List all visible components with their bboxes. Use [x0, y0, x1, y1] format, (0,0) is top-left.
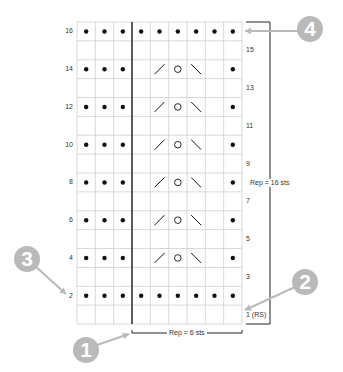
- yarn-over-icon: [175, 66, 182, 73]
- purl-dot-icon: [84, 218, 88, 222]
- yarn-over-icon: [175, 179, 182, 186]
- purl-dot-icon: [121, 105, 125, 109]
- row-label-10: 10: [53, 141, 73, 149]
- purl-dot-icon: [84, 180, 88, 184]
- purl-dot-icon: [121, 67, 125, 71]
- purl-dot-icon: [84, 67, 88, 71]
- ssk-icon: [191, 253, 201, 263]
- purl-dot-icon: [102, 29, 106, 33]
- k2tog-icon: [155, 177, 165, 187]
- purl-dot-icon: [231, 105, 235, 109]
- ssk-icon: [191, 215, 201, 225]
- purl-dot-icon: [121, 293, 125, 297]
- purl-dot-icon: [121, 256, 125, 260]
- purl-dot-icon: [194, 29, 198, 33]
- callout-4-icon: 4: [297, 16, 323, 42]
- yarn-over-icon: [175, 104, 182, 111]
- purl-dot-icon: [176, 293, 180, 297]
- purl-dot-icon: [84, 29, 88, 33]
- row-label-8: 8: [53, 178, 73, 186]
- ssk-icon: [191, 102, 201, 112]
- purl-dot-icon: [121, 142, 125, 146]
- purl-dot-icon: [231, 180, 235, 184]
- purl-dot-icon: [102, 293, 106, 297]
- callout-4-arrow-head: [245, 28, 251, 35]
- purl-dot-icon: [84, 142, 88, 146]
- ssk-icon: [191, 140, 201, 150]
- purl-dot-icon: [102, 256, 106, 260]
- row-label-3: 3: [246, 273, 250, 281]
- chart-symbols: [84, 29, 235, 298]
- purl-dot-icon: [84, 293, 88, 297]
- callout-2-icon: 2: [292, 269, 318, 295]
- purl-dot-icon: [139, 29, 143, 33]
- row-label-13: 13: [246, 84, 254, 92]
- purl-dot-icon: [157, 293, 161, 297]
- purl-dot-icon: [231, 218, 235, 222]
- purl-dot-icon: [102, 180, 106, 184]
- knitting-chart: [0, 0, 343, 372]
- row-label-5: 5: [246, 235, 250, 243]
- purl-dot-icon: [84, 105, 88, 109]
- purl-dot-icon: [176, 29, 180, 33]
- callout-3-icon: 3: [14, 246, 40, 272]
- purl-dot-icon: [102, 67, 106, 71]
- purl-dot-icon: [194, 293, 198, 297]
- ssk-icon: [191, 64, 201, 74]
- purl-dot-icon: [102, 218, 106, 222]
- purl-dot-icon: [231, 256, 235, 260]
- purl-dot-icon: [231, 67, 235, 71]
- row-label-9: 9: [246, 160, 250, 168]
- k2tog-icon: [155, 140, 165, 150]
- purl-dot-icon: [231, 29, 235, 33]
- purl-dot-icon: [212, 29, 216, 33]
- purl-dot-icon: [157, 29, 161, 33]
- k2tog-icon: [155, 64, 165, 74]
- k2tog-icon: [155, 215, 165, 225]
- row-label-7: 7: [246, 197, 250, 205]
- purl-dot-icon: [121, 180, 125, 184]
- yarn-over-icon: [175, 217, 182, 224]
- purl-dot-icon: [231, 142, 235, 146]
- row-label-1: 1 (RS): [246, 311, 266, 319]
- row-label-14: 14: [53, 65, 73, 73]
- row-label-15: 15: [246, 46, 254, 54]
- k2tog-icon: [155, 253, 165, 263]
- purl-dot-icon: [102, 105, 106, 109]
- row-label-4: 4: [53, 254, 73, 262]
- purl-dot-icon: [121, 29, 125, 33]
- row-label-12: 12: [53, 103, 73, 111]
- purl-dot-icon: [102, 142, 106, 146]
- chart-grid: [77, 22, 242, 324]
- ssk-icon: [191, 177, 201, 187]
- yarn-over-icon: [175, 141, 182, 148]
- purl-dot-icon: [231, 293, 235, 297]
- row-label-6: 6: [53, 216, 73, 224]
- repeat-stitches-label: Rep = 6 sts: [167, 329, 207, 337]
- purl-dot-icon: [84, 256, 88, 260]
- repeat-rows-label: Rep = 16 sts: [250, 179, 290, 187]
- row-label-16: 16: [53, 27, 73, 35]
- callout-3-arrow: [35, 266, 66, 294]
- row-label-11: 11: [246, 122, 253, 130]
- yarn-over-icon: [175, 255, 182, 262]
- callout-1-icon: 1: [73, 337, 99, 363]
- purl-dot-icon: [212, 293, 216, 297]
- row-label-2: 2: [53, 292, 73, 300]
- k2tog-icon: [155, 102, 165, 112]
- purl-dot-icon: [139, 293, 143, 297]
- purl-dot-icon: [121, 218, 125, 222]
